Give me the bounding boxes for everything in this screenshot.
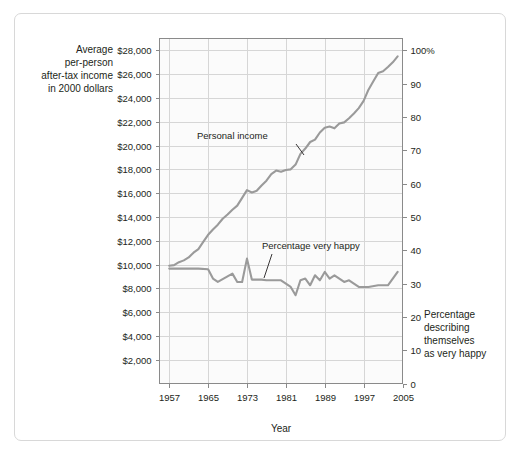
left-axis-tick-label: $26,000 bbox=[117, 69, 151, 80]
chart-container: Average per-person after-tax income in 2… bbox=[0, 0, 522, 456]
left-axis-tick-label: $10,000 bbox=[117, 260, 151, 271]
annotation-personal-income-label: Personal income bbox=[197, 130, 268, 141]
right-axis-tick-label: 20 bbox=[411, 312, 422, 323]
left-axis-tick-label: $18,000 bbox=[117, 164, 151, 175]
right-axis-tick-label: 30 bbox=[411, 279, 422, 290]
right-axis-tick-label: 90 bbox=[411, 79, 422, 90]
left-axis-tick-label: $12,000 bbox=[117, 236, 151, 247]
right-axis-title-line-3: themselves bbox=[424, 335, 475, 346]
right-axis-tick-label: 60 bbox=[411, 179, 422, 190]
left-axis-tick-label: $2,000 bbox=[122, 355, 151, 366]
left-axis-tick-label: $16,000 bbox=[117, 188, 151, 199]
x-axis-tick-label: 1973 bbox=[237, 392, 258, 403]
left-axis-ticks: $2,000$4,000$6,000$8,000$10,000$12,000$1… bbox=[117, 45, 159, 366]
right-axis-title-line-2: describing bbox=[424, 322, 470, 333]
left-axis-tick-label: $14,000 bbox=[117, 212, 151, 223]
right-axis-title-line-4: as very happy bbox=[424, 348, 486, 359]
left-axis-tick-label: $6,000 bbox=[122, 307, 151, 318]
right-axis-tick-label: 100% bbox=[411, 45, 436, 56]
right-axis-tick-label: 40 bbox=[411, 245, 422, 256]
x-axis-tick-label: 1957 bbox=[159, 392, 180, 403]
right-axis-tick-label: 70 bbox=[411, 145, 422, 156]
right-axis-tick-label: 50 bbox=[411, 212, 422, 223]
left-axis-tick-label: $22,000 bbox=[117, 117, 151, 128]
left-axis-tick-label: $28,000 bbox=[117, 45, 151, 56]
chart-svg: Average per-person after-tax income in 2… bbox=[0, 0, 522, 456]
right-axis-tick-label: 10 bbox=[411, 345, 422, 356]
x-axis-ticks: 1957196519731981198919972005 bbox=[159, 384, 414, 403]
left-axis-title-line-4: in 2000 dollars bbox=[48, 83, 113, 94]
left-axis-title: Average per-person after-tax income in 2… bbox=[41, 44, 113, 94]
left-axis-tick-label: $20,000 bbox=[117, 141, 151, 152]
left-axis-title-line-3: after-tax income bbox=[41, 70, 113, 81]
right-axis-tick-label: 80 bbox=[411, 112, 422, 123]
right-axis-title-line-1: Percentage bbox=[424, 309, 476, 320]
annotation-percentage-very-happy-label: Percentage very happy bbox=[262, 240, 360, 251]
x-axis-tick-label: 1989 bbox=[315, 392, 336, 403]
x-axis-tick-label: 1997 bbox=[354, 392, 375, 403]
left-axis-title-line-1: Average bbox=[76, 44, 114, 55]
x-axis-title: Year bbox=[271, 423, 292, 434]
right-axis-tick-label: 0 bbox=[411, 379, 416, 390]
left-axis-tick-label: $8,000 bbox=[122, 283, 151, 294]
left-axis-title-line-2: per-person bbox=[65, 57, 113, 68]
left-axis-tick-label: $4,000 bbox=[122, 331, 151, 342]
x-axis-tick-label: 1965 bbox=[198, 392, 219, 403]
plot-area bbox=[160, 39, 403, 384]
left-axis-tick-label: $24,000 bbox=[117, 93, 151, 104]
right-axis-title: Percentage describing themselves as very… bbox=[424, 309, 486, 359]
x-axis-tick-label: 2005 bbox=[393, 392, 414, 403]
x-axis-tick-label: 1981 bbox=[276, 392, 297, 403]
